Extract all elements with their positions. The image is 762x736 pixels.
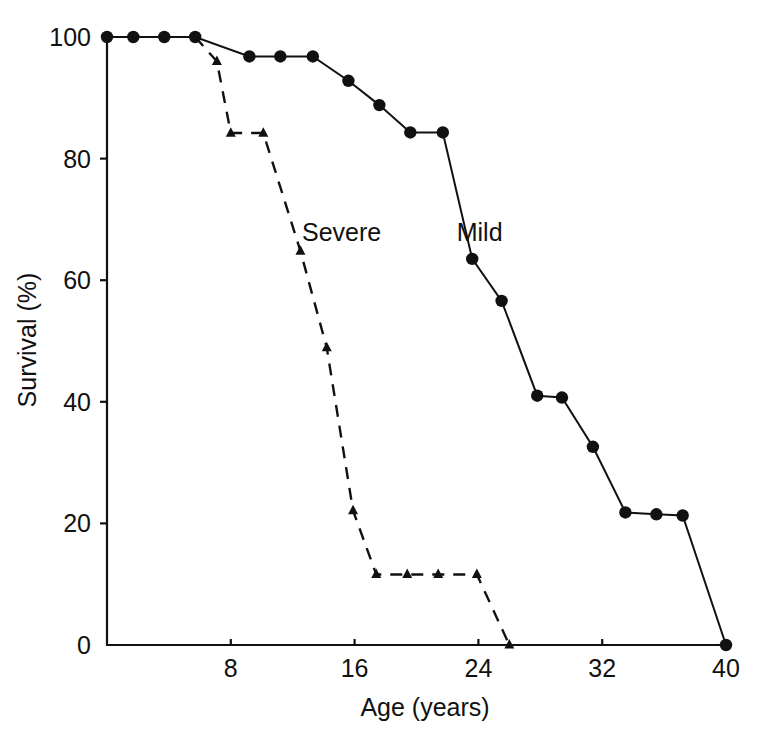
y-tick-label-80: 80	[63, 145, 91, 173]
axes	[107, 37, 726, 645]
marker-mild-6	[307, 50, 319, 62]
marker-mild-1	[127, 31, 139, 43]
marker-severe-10	[472, 569, 482, 579]
marker-mild-11	[466, 253, 478, 265]
marker-mild-9	[404, 126, 416, 138]
x-axis-title: Age (years)	[360, 693, 489, 721]
axis-spines	[107, 37, 726, 645]
x-axis-tick-labels: 816243240	[224, 654, 740, 682]
marker-mild-18	[676, 509, 688, 521]
x-tick-label-40: 40	[712, 654, 740, 682]
marker-severe-4	[295, 245, 305, 255]
marker-severe-5	[322, 342, 332, 352]
y-tick-label-100: 100	[49, 23, 91, 51]
marker-mild-2	[158, 31, 170, 43]
marker-mild-10	[437, 126, 449, 138]
marker-mild-16	[619, 506, 631, 518]
marker-mild-0	[101, 31, 113, 43]
y-tick-label-20: 20	[63, 509, 91, 537]
series-annotation-severe: Severe	[302, 218, 381, 246]
marker-severe-11	[504, 639, 514, 649]
y-tick-label-40: 40	[63, 388, 91, 416]
marker-severe-6	[348, 505, 358, 515]
x-tick-label-32: 32	[588, 654, 616, 682]
marker-mild-5	[274, 50, 286, 62]
series-annotation-mild: Mild	[457, 218, 503, 246]
chart-canvas: 816243240 020406080100 SevereMild Age (y…	[0, 0, 762, 736]
marker-mild-19	[720, 639, 732, 651]
marker-mild-13	[531, 390, 543, 402]
x-tick-label-16: 16	[341, 654, 369, 682]
series-markers	[101, 31, 732, 651]
marker-mild-14	[556, 391, 568, 403]
y-axis-title: Survival (%)	[13, 273, 41, 408]
marker-mild-17	[650, 508, 662, 520]
marker-mild-12	[495, 295, 507, 307]
y-axis-tick-labels: 020406080100	[49, 23, 91, 659]
marker-mild-8	[373, 99, 385, 111]
marker-severe-8	[402, 569, 412, 579]
series-inline-labels: SevereMild	[302, 218, 503, 246]
marker-mild-15	[587, 441, 599, 453]
series-line-mild	[107, 37, 726, 645]
series-line-severe	[195, 37, 509, 645]
y-tick-label-60: 60	[63, 266, 91, 294]
marker-mild-4	[243, 50, 255, 62]
x-tick-label-24: 24	[464, 654, 492, 682]
y-tick-label-0: 0	[77, 631, 91, 659]
series-lines	[107, 37, 726, 645]
x-tick-label-8: 8	[224, 654, 238, 682]
marker-mild-7	[342, 75, 354, 87]
survival-chart-figure: 816243240 020406080100 SevereMild Age (y…	[0, 0, 762, 736]
